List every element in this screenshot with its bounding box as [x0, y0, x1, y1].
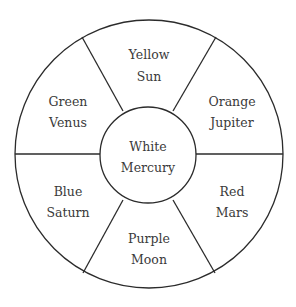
segment-body: Jupiter	[208, 115, 253, 130]
segment-body: Mars	[216, 205, 249, 220]
center-color: White	[129, 139, 166, 154]
divider-upper-left	[82, 37, 123, 111]
segment-top: Yellow Sun	[128, 47, 170, 84]
inner-circle	[100, 107, 196, 203]
segment-color: Orange	[208, 94, 255, 109]
segment-color: Yellow	[128, 47, 170, 62]
segment-lower-right: Red Mars	[216, 184, 249, 220]
segment-bottom: Purple Moon	[128, 231, 170, 267]
segment-lower-left: Blue Saturn	[46, 184, 89, 220]
segment-body: Moon	[131, 252, 167, 267]
segment-color: Purple	[128, 231, 170, 246]
color-planet-wheel: Yellow Sun Orange Jupiter Red Mars Purpl…	[0, 0, 296, 307]
segment-body: Saturn	[46, 205, 89, 220]
segment-body: Venus	[48, 115, 87, 130]
segment-upper-left: Green Venus	[48, 94, 87, 130]
segment-upper-right: Orange Jupiter	[208, 94, 255, 130]
center-body: Mercury	[121, 160, 176, 175]
segment-color: Red	[220, 184, 245, 199]
segment-color: Green	[49, 94, 88, 109]
segment-color: Blue	[54, 184, 83, 199]
segment-body: Sun	[137, 69, 162, 84]
divider-lower-right	[173, 200, 215, 273]
center-label: White Mercury	[121, 139, 176, 175]
